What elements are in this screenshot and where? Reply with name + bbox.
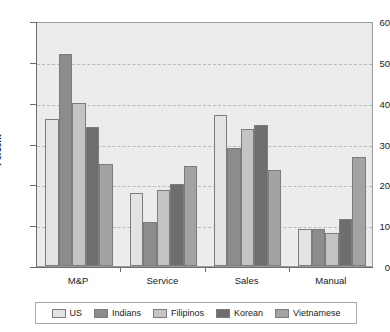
y-tick-label: 50 xyxy=(362,57,390,68)
bar xyxy=(184,166,198,266)
legend-label: Indians xyxy=(112,308,141,318)
bar xyxy=(298,229,312,266)
bar-chart: Percent 0102030405060 M&PServiceSalesMan… xyxy=(0,0,390,332)
legend-item[interactable]: Korean xyxy=(216,308,263,318)
y-tick-label: 20 xyxy=(362,180,390,191)
y-tick-mark xyxy=(30,104,36,105)
legend-item[interactable]: Filipinos xyxy=(153,308,204,318)
legend-swatch xyxy=(153,309,167,318)
legend-label: Vietnamese xyxy=(293,308,340,318)
chart-legend: USIndiansFilipinosKoreanVietnamese xyxy=(35,302,357,324)
bar xyxy=(339,219,353,266)
bar xyxy=(45,119,59,266)
legend-item[interactable]: US xyxy=(52,308,83,318)
chart-title xyxy=(0,0,390,3)
legend-swatch xyxy=(275,309,289,318)
y-tick-mark xyxy=(30,185,36,186)
bar xyxy=(130,193,144,267)
bar xyxy=(170,184,184,266)
bar xyxy=(72,103,86,266)
gridline xyxy=(37,105,372,106)
y-axis-title: Percent xyxy=(0,134,3,165)
legend-item[interactable]: Indians xyxy=(94,308,141,318)
bar xyxy=(325,233,339,266)
bar xyxy=(227,148,241,266)
bar xyxy=(99,164,113,266)
y-tick-label: 60 xyxy=(362,17,390,28)
x-tick-mark xyxy=(289,267,290,272)
legend-swatch xyxy=(216,309,230,318)
y-tick-label: 40 xyxy=(362,98,390,109)
x-category-label: Service xyxy=(147,275,179,286)
legend-item[interactable]: Vietnamese xyxy=(275,308,340,318)
bar xyxy=(241,129,255,266)
x-category-label: M&P xyxy=(68,275,89,286)
bar xyxy=(143,222,157,266)
legend-label: Korean xyxy=(234,308,263,318)
bar xyxy=(352,157,366,266)
y-tick-label: 30 xyxy=(362,139,390,150)
x-tick-mark xyxy=(205,267,206,272)
gridline xyxy=(37,64,372,65)
y-tick-mark xyxy=(30,63,36,64)
y-tick-label: 10 xyxy=(362,221,390,232)
bar xyxy=(254,125,268,266)
legend-label: US xyxy=(70,308,83,318)
y-tick-mark xyxy=(30,145,36,146)
bar xyxy=(268,170,282,266)
bar xyxy=(157,190,171,266)
bar xyxy=(59,54,73,266)
y-tick-mark xyxy=(30,226,36,227)
plot-area xyxy=(36,22,373,267)
y-axis-line xyxy=(36,22,37,267)
bar xyxy=(86,127,100,266)
x-category-label: Manual xyxy=(315,275,346,286)
legend-label: Filipinos xyxy=(171,308,204,318)
legend-swatch xyxy=(52,309,66,318)
bar xyxy=(214,115,228,266)
x-tick-mark xyxy=(120,267,121,272)
x-category-label: Sales xyxy=(235,275,259,286)
bar xyxy=(312,229,326,266)
y-tick-mark xyxy=(30,22,36,23)
legend-swatch xyxy=(94,309,108,318)
